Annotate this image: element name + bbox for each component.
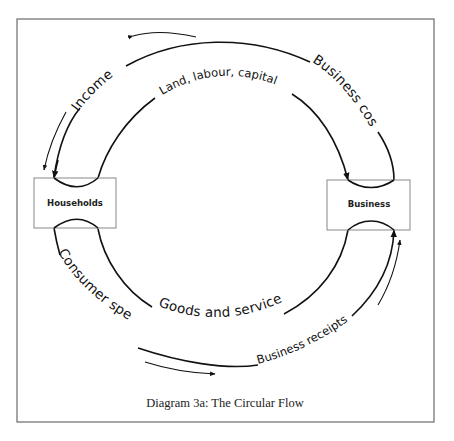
consumer-spending-label: Consumer spending bbox=[0, 0, 136, 323]
households-node: Households bbox=[34, 178, 116, 228]
diagram-caption: Diagram 3a: The Circular Flow bbox=[146, 396, 303, 410]
income-label: Income bbox=[68, 66, 116, 114]
circular-flow-diagram: Households Business Income Business cost… bbox=[0, 0, 454, 441]
goods-flow-line bbox=[98, 229, 348, 314]
arrow-top-left-indicator bbox=[133, 32, 196, 37]
arrow-right-up-indicator bbox=[378, 240, 400, 305]
business-node: Business bbox=[327, 180, 410, 230]
factors-flow-line bbox=[98, 94, 348, 180]
business-receipts-label: Business receipts bbox=[255, 312, 350, 367]
households-label: Households bbox=[47, 198, 103, 208]
business-label: Business bbox=[348, 199, 390, 209]
goods-services-label: Goods and services bbox=[0, 0, 284, 320]
factors-label: Land, labour, capital bbox=[157, 65, 280, 98]
